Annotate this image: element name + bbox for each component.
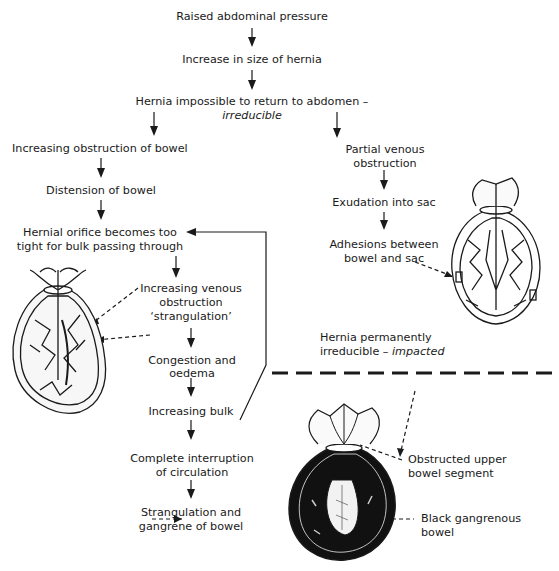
node-distension: Distension of bowel <box>40 184 162 198</box>
node-partial-venous-line2: obstruction <box>330 157 440 171</box>
node-adhesions-line1: Adhesions between <box>320 238 448 252</box>
node-increase-size: Increase in size of hernia <box>172 53 332 67</box>
node-venous-line3: ‘strangulation’ <box>136 310 246 324</box>
node-venous-line2: obstruction <box>136 296 246 310</box>
node-increasing-obstruction: Increasing obstruction of bowel <box>12 142 188 156</box>
label-obstructed-upper-segment-line2: bowel segment <box>408 467 494 481</box>
node-impacted-line1: Hernia permanently <box>320 331 432 345</box>
node-venous-line1: Increasing venous <box>136 282 246 296</box>
node-orifice-line2: tight for bulk passing through <box>10 240 190 254</box>
node-orifice-line1: Hernial orifice becomes too <box>10 226 190 240</box>
node-congestion-line1: Congestion and <box>146 354 238 368</box>
impacted-text: irreducible – <box>320 345 392 358</box>
node-impacted-line2: irreducible – impacted <box>320 345 445 359</box>
strangulated-hernia-sac-illustration <box>13 268 106 413</box>
node-exudation: Exudation into sac <box>320 196 448 210</box>
node-interruption-line2: of circulation <box>122 466 262 480</box>
label-black-gangrenous-line1: Black gangrenous <box>421 512 521 526</box>
label-obstructed-upper-segment-line1: Obstructed upper <box>408 453 507 467</box>
node-irreducible-line2: irreducible <box>200 109 304 123</box>
node-interruption-line1: Complete interruption <box>122 452 262 466</box>
gangrenous-hernia-sac-illustration <box>289 404 395 560</box>
label-black-gangrenous-line2: bowel <box>421 526 454 540</box>
adhesions-hernia-sac-illustration <box>452 178 540 324</box>
node-adhesions-line2: bowel and sac <box>320 252 448 266</box>
node-strangulation-line2: gangrene of bowel <box>132 520 250 534</box>
diagram-graphics <box>0 0 559 571</box>
node-strangulation-line1: Strangulation and <box>132 506 250 520</box>
impacted-italic: impacted <box>392 345 445 358</box>
node-partial-venous-line1: Partial venous <box>330 143 440 157</box>
node-raised-abdominal-pressure: Raised abdominal pressure <box>172 10 332 24</box>
node-increasing-bulk: Increasing bulk <box>140 405 242 419</box>
node-congestion-line2: oedema <box>146 367 238 381</box>
node-irreducible-line1: Hernia impossible to return to abdomen – <box>120 95 384 109</box>
